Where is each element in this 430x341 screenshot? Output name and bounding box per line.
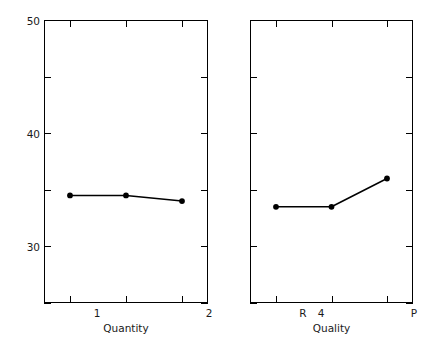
data-point-marker (67, 193, 73, 199)
data-point-marker (179, 198, 185, 204)
y-axis-title: Per cent taken by subordinate (2, 0, 24, 22)
plot-panel-quantity: 01020304050 124 Quantity (44, 20, 208, 303)
y-tick-mark: 0 (44, 303, 51, 304)
y-tick-label: 40 (27, 128, 40, 140)
y-tick-mark-mirror (406, 303, 413, 304)
y-axis-title-text: Per cent taken by subordinate (2, 0, 24, 22)
y-tick-label: 50 (27, 15, 40, 27)
series-line-quantity (44, 20, 208, 303)
series-polyline (276, 178, 387, 206)
series-line-quality (250, 20, 413, 303)
x-tick-label: 2 (206, 307, 213, 319)
x-tick-label: 1 (94, 307, 101, 319)
x-axis-title-left: Quantity (44, 322, 208, 334)
x-tick-label: R (299, 307, 306, 319)
x-axis-title-right: Quality (250, 322, 413, 334)
x-tick-label: 4 (318, 307, 325, 319)
plot-panel-quality: RPM Quality (250, 20, 413, 303)
x-tick-label: P (411, 307, 417, 319)
data-point-marker (273, 204, 279, 210)
y-tick-label: 30 (27, 241, 40, 253)
data-point-marker (123, 193, 129, 199)
y-tick-mark (250, 303, 257, 304)
y-tick-mark-mirror (201, 303, 208, 304)
figure-canvas: Per cent taken by subordinate 0102030405… (0, 0, 430, 341)
data-point-marker (384, 176, 390, 182)
data-point-marker (329, 204, 335, 210)
